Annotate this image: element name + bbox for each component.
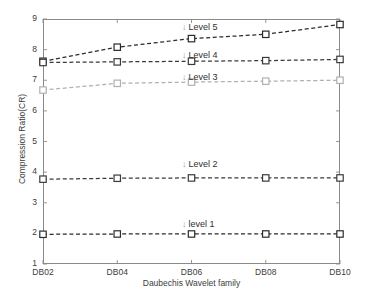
chart-figure: Compression Ratio(CR) Daubechis Wavelet …	[0, 0, 368, 302]
y-tick-4: 4	[23, 167, 37, 176]
arrow-down-icon: ↓	[182, 72, 187, 82]
arrow-down-icon: ↓	[182, 22, 187, 32]
y-tick-6: 6	[23, 106, 37, 115]
y-tick-2: 2	[23, 228, 37, 237]
arrow-down-icon: ↓	[182, 159, 187, 169]
annotation-label: Level 5	[189, 22, 218, 32]
y-tick-9: 9	[23, 14, 37, 23]
x-axis-title: Daubechis Wavelet family	[43, 278, 340, 288]
x-tick-DB04: DB04	[97, 268, 137, 277]
arrow-down-icon: ↓	[182, 50, 187, 60]
annotation-level-1: ↓level 1	[182, 219, 215, 229]
y-tick-5: 5	[23, 137, 37, 146]
arrow-down-icon: ↓	[182, 219, 187, 229]
x-tick-DB02: DB02	[23, 268, 63, 277]
annotation-level-3: ↓Level 3	[182, 72, 218, 82]
annotation-level-2: ↓Level 2	[182, 159, 218, 169]
x-tick-DB10: DB10	[320, 268, 360, 277]
annotation-label: Level 4	[189, 50, 218, 60]
x-tick-DB06: DB06	[172, 268, 212, 277]
x-tick-DB08: DB08	[246, 268, 286, 277]
annotation-label: Level 3	[189, 72, 218, 82]
annotation-label: Level 2	[189, 159, 218, 169]
annotation-level-4: ↓Level 4	[182, 50, 218, 60]
y-tick-7: 7	[23, 75, 37, 84]
annotation-label: level 1	[189, 219, 215, 229]
annotation-level-5: ↓Level 5	[182, 22, 218, 32]
y-tick-3: 3	[23, 198, 37, 207]
y-tick-8: 8	[23, 45, 37, 54]
